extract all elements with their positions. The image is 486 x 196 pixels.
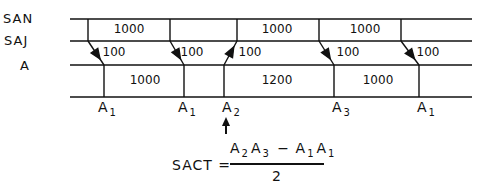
row-label-san: SAN <box>3 11 33 26</box>
axis-label-a1: A1 <box>417 99 435 118</box>
saj-value: 100 <box>181 45 204 59</box>
san-value: 1000 <box>114 22 145 36</box>
formula-numerator: A2A3 − A1A1 <box>230 140 337 159</box>
saj-value: 100 <box>103 45 126 59</box>
saj-value: 100 <box>239 45 262 59</box>
formula-lhs: SACT = <box>172 157 231 173</box>
a-value: 1200 <box>262 73 293 87</box>
axis-label-a1: A1 <box>178 99 196 118</box>
timing-diagram-lines <box>0 0 486 196</box>
saj-value: 100 <box>417 45 440 59</box>
formula-denominator: 2 <box>272 168 282 184</box>
fraction-bar <box>230 163 324 165</box>
a-value: 1000 <box>363 73 394 87</box>
axis-label-a1: A1 <box>98 99 116 118</box>
row-label-a: A <box>20 58 30 73</box>
san-value: 1000 <box>262 22 293 36</box>
axis-label-a3: A3 <box>332 99 350 118</box>
row-label-saj: SAJ <box>4 33 28 48</box>
a-value: 1000 <box>130 73 161 87</box>
axis-label-a2: A2 <box>222 99 240 118</box>
san-value: 1000 <box>350 22 381 36</box>
saj-value: 100 <box>337 45 360 59</box>
up-arrow-icon <box>222 117 230 134</box>
